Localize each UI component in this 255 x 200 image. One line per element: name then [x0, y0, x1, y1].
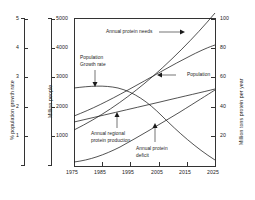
annotation-population: Population: [187, 72, 210, 78]
annotation-annual-protein-deficit-line1: Annual protein: [136, 146, 168, 152]
leader-arrowhead-annual-protein-needs: [180, 30, 185, 35]
annotation-annual-regional-protein-production-line1: Annual regional: [91, 131, 125, 137]
annotation-annual-regional-protein-production-line2: protein production: [91, 138, 130, 144]
chart-figure: 5 4 3 2 1 % population growth rate 5000 …: [0, 0, 255, 200]
annotation-population-growth-rate-line1: Population: [80, 55, 103, 61]
annotation-annual-protein-needs: Annual protein needs: [106, 29, 152, 35]
annotation-population-growth-rate-line2: Growth rate: [80, 62, 106, 68]
annotation-annual-protein-deficit-line2: deficit: [136, 153, 149, 159]
curve-annual-regional-protein-production: [74, 89, 215, 122]
